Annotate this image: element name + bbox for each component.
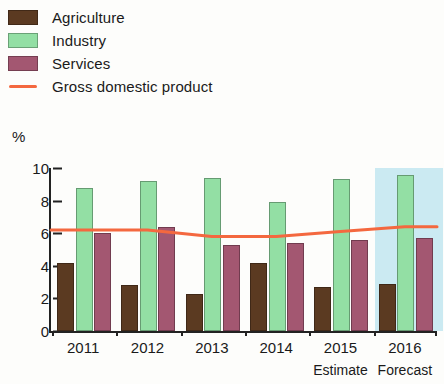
x-axis-tick-2013: [181, 331, 183, 336]
x-axis-tick-2011: [52, 331, 54, 336]
x-axis-label-2012: 2012: [131, 339, 164, 356]
gdp-line-series: [51, 168, 437, 331]
x-axis-label-2014: 2014: [259, 339, 292, 356]
x-axis-label-2011: 2011: [67, 339, 99, 356]
x-axis-tick-2012: [116, 331, 118, 336]
x-axis-label-2013: 2013: [195, 339, 228, 356]
x-axis-line: [49, 331, 437, 333]
x-axis-tick-2015: [309, 331, 311, 336]
chart-container: Agriculture Industry Services Gross dome…: [0, 0, 444, 384]
legend-label-gdp: Gross domestic product: [52, 79, 213, 94]
x-axis-sublabel-2016: Forecast: [378, 362, 432, 378]
x-axis-label-2016: 2016: [388, 339, 421, 356]
x-axis-label-2015: 2015: [324, 339, 357, 356]
x-axis-sublabel-2015: Estimate: [313, 362, 367, 378]
x-axis-tick-2014: [245, 331, 247, 336]
x-axis-tick-end: [435, 331, 437, 336]
x-axis-tick-2016: [374, 331, 376, 336]
legend-label-agriculture: Agriculture: [52, 10, 125, 25]
